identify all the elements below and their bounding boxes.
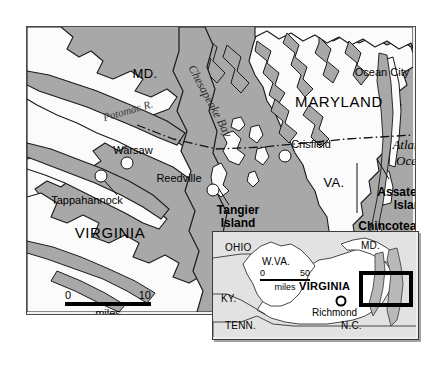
inset-label-tenn: TENN. [225,321,256,332]
inset-label-nc: N.C. [341,321,362,332]
state-label-maryland: MARYLAND [295,94,383,110]
scale-bar-main-unit: miles [65,306,151,315]
island-label-tangier-line1: Tangier [217,204,259,217]
city-label-reedville: Reedville [156,173,201,185]
inset-label-richmond: Richmond [312,308,357,319]
state-label-virginia: VIRGINIA [75,225,146,241]
city-dot-crisfield [279,150,292,163]
city-label-warsaw: Warsaw [113,145,152,157]
inset-label-ohio: OHIO [225,243,251,254]
scale-bar-inset-min: 0 [260,268,265,278]
water-label-ocean: Ocean [396,154,416,168]
scale-bar-main-min: 0 [65,289,71,301]
island-label-assateague-line1: Assateague [377,186,416,199]
city-label-ocean-city: Ocean City [355,67,409,79]
inset-label-wva: W.VA. [262,257,290,268]
city-label-crisfield: Crisfield [291,139,331,151]
city-dot-reedville [207,184,220,197]
inset-capital-dot-richmond [336,296,347,307]
scale-bar-inset-numbers: 0 50 [260,268,310,279]
scale-bar-main-max: 10 [139,289,151,301]
inset-map: OHIO W.VA. KY. TENN. N.C. MD. VIRGINIA R… [212,231,419,340]
city-dot-warsaw [121,157,134,170]
island-label-tangier-line2: Island [217,217,259,230]
island-label-assateague-line2: Island [377,199,416,212]
scale-bar-inset-unit: miles [260,281,310,292]
scale-bar-main-numbers: 0 10 [65,289,151,302]
state-label-va: VA. [323,176,344,190]
water-label-atlantic: Atlantic [392,138,416,152]
island-label-tangier: Tangier Island [217,204,259,229]
scale-bar-inset-max: 50 [300,268,310,278]
inset-label-md: MD. [361,241,380,252]
scale-bar-main: 0 10 miles [65,289,151,315]
scale-bar-inset: 0 50 miles [260,268,310,292]
map-figure: MD. MARYLAND VIRGINIA VA. Potomac R. Che… [0,0,446,368]
inset-label-ky: KY. [221,294,236,305]
island-label-assateague: Assateague Island [377,186,416,211]
state-label-md: MD. [132,67,157,81]
city-label-tappahannock: Tappahannock [51,195,123,207]
city-dot-tappahannock [95,170,108,183]
